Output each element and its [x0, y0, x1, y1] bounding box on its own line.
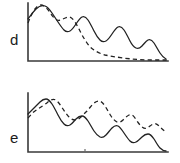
panel-e: e: [10, 93, 168, 152]
panel-d: d: [10, 3, 168, 61]
panel-d-solid-curve: [28, 6, 166, 59]
two-panel-curve-figure: d e: [0, 0, 180, 163]
panel-e-dashed-curve: [28, 99, 166, 132]
panel-label-e: e: [10, 129, 18, 146]
panel-label-d: d: [10, 31, 18, 48]
panel-d-dashed-curve: [28, 5, 167, 60]
panel-e-solid-curve: [28, 99, 166, 151]
figure-container: d e: [0, 0, 180, 163]
panel-e-axes: [28, 93, 168, 152]
